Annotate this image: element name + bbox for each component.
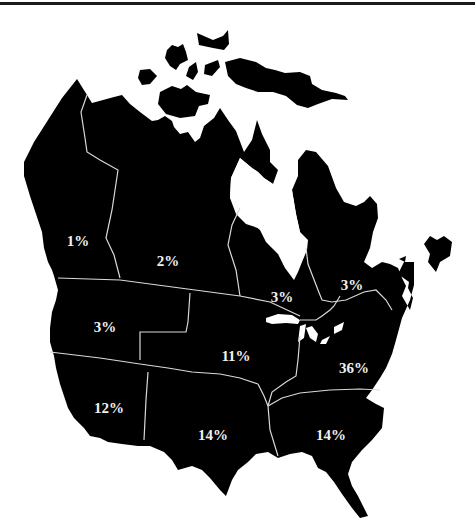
label-prairie-north: 2% <box>157 253 180 269</box>
label-southwest: 12% <box>94 400 124 416</box>
label-quebec-atlantic: 3% <box>341 277 364 293</box>
newfoundland <box>424 236 452 272</box>
label-bc-yukon: 1% <box>67 233 90 249</box>
label-south-central: 14% <box>198 427 228 443</box>
mainland <box>24 79 414 518</box>
north-america-map: 1% 2% 3% 3% 3% 11% 36% 12% 14% 14% <box>0 0 475 531</box>
label-pacific-northwest: 3% <box>94 319 117 335</box>
label-ontario: 3% <box>271 289 294 305</box>
label-midwest-plains: 11% <box>221 348 250 364</box>
label-northeast: 36% <box>339 360 369 376</box>
label-southeast: 14% <box>316 427 346 443</box>
